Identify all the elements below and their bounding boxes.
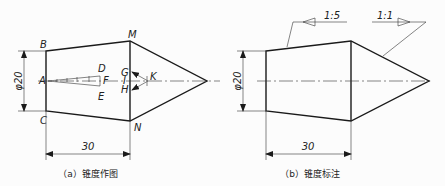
taper-drawing-canvas: B A C D F E M N G I H K φ20 30 （a）锥度作图 [0, 0, 445, 186]
diameter-label-a: φ20 [13, 71, 24, 90]
diameter-label-b: φ20 [232, 71, 243, 90]
point-label-a: A [38, 75, 46, 86]
taper-symbol-1-1 [372, 18, 426, 56]
figure-a: B A C D F E M N G I H K φ20 30 （a）锥度作图 [13, 29, 220, 179]
taper-label-1-1: 1:1 [377, 10, 393, 21]
length-dimension-a [46, 111, 130, 160]
point-label-h: H [121, 84, 129, 95]
caption-b: （b）锥度标注 [280, 168, 340, 179]
drawing-svg: B A C D F E M N G I H K φ20 30 （a）锥度作图 [0, 0, 445, 186]
point-label-f: F [103, 75, 109, 86]
length-dimension-b [266, 111, 351, 160]
length-label-a: 30 [82, 141, 95, 152]
figure-b: 1:5 1:1 φ20 30 （b）锥度标注 [232, 10, 432, 179]
caption-a: （a）锥度作图 [58, 168, 118, 179]
point-label-m: M [128, 29, 137, 40]
point-label-d: D [98, 63, 106, 74]
length-label-b: 30 [302, 141, 315, 152]
point-label-n: N [134, 122, 142, 133]
point-label-e: E [98, 91, 105, 102]
taper-label-1-5: 1:5 [324, 10, 340, 21]
point-label-k: K [150, 71, 158, 82]
point-label-b: B [40, 39, 47, 50]
